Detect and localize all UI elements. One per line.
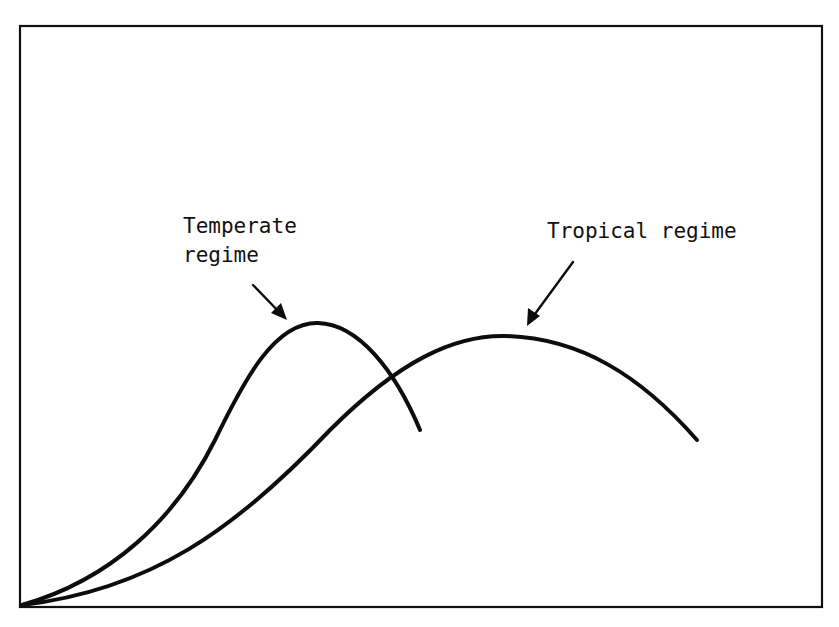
tropical-label: Tropical regime [547,219,737,243]
temperate-label-line2: regime [183,243,259,267]
chart-canvas: Temperate regime Tropical regime [0,0,839,627]
temperate-arrow-icon [253,285,287,320]
temperate-regime-curve [22,323,420,605]
tropical-regime-curve [22,336,697,605]
temperate-label-line1: Temperate [183,214,297,238]
plot-frame [20,26,822,607]
tropical-arrow-icon [527,262,573,326]
